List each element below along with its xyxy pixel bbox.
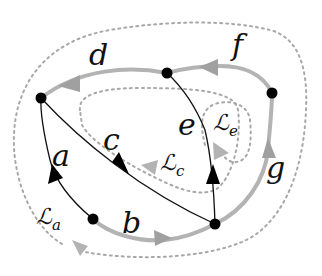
label-loop-c: ℒc — [160, 150, 185, 180]
node-top-left — [36, 93, 47, 104]
edge-d — [41, 70, 167, 98]
node-bottom-right — [210, 219, 221, 230]
label-loop-e: ℒe — [213, 110, 238, 140]
edge-f-arrow-icon — [199, 59, 218, 76]
label-a: a — [52, 138, 70, 173]
label-f: f — [230, 27, 248, 62]
loop-e-arrow-icon — [213, 142, 229, 160]
loop-a-arrow-icon — [72, 240, 88, 256]
edge-f — [167, 66, 272, 93]
edge-e — [167, 73, 215, 224]
label-g: g — [266, 150, 285, 185]
label-b: b — [122, 205, 141, 240]
node-top — [162, 68, 173, 79]
node-right — [267, 88, 278, 99]
label-d: d — [89, 37, 108, 72]
label-e: e — [178, 107, 196, 142]
graph-diagram: a b c d e f g ℒa ℒc ℒe — [0, 0, 322, 276]
node-bottom-left — [88, 214, 99, 225]
label-c: c — [103, 122, 120, 157]
edge-b — [93, 219, 215, 240]
label-loop-a: ℒa — [36, 204, 61, 234]
edge-e-arrow-icon — [206, 164, 220, 184]
edge-b-arrow-icon — [154, 230, 172, 246]
